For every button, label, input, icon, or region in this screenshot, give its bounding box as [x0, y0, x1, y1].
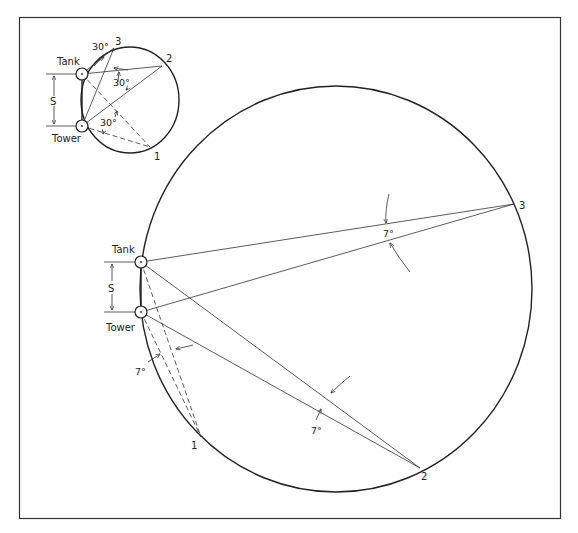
- main-dashed-tower-to-1: [141, 312, 201, 437]
- inset-angle-arrow-b3: [126, 88, 128, 90]
- inset-angle-arrow-c2: [103, 131, 104, 134]
- main-point3-label: 3: [519, 200, 525, 211]
- main-tank-label: Tank: [111, 244, 135, 255]
- main-line-tower-to-3: [141, 204, 514, 312]
- main-point2-label: 2: [421, 471, 427, 482]
- main-separation-label: S: [108, 283, 114, 294]
- inset-diagram: S Tank Tower 3 2 1 30° 30° 30°: [46, 36, 179, 162]
- inset-tank-dot: [81, 73, 83, 75]
- inset-separation-label: S: [50, 96, 56, 107]
- main-angle3-arrow-top: [386, 194, 389, 223]
- main-line-tank-to-2: [141, 262, 420, 468]
- inset-tower-dot: [81, 125, 83, 127]
- main-dashed-tank-to-1: [141, 262, 201, 437]
- inset-tank-label: Tank: [56, 56, 80, 67]
- inset-angle-label-a: 30°: [92, 41, 109, 52]
- main-point1-label: 1: [191, 440, 197, 451]
- inset-point3-label: 3: [115, 36, 121, 47]
- main-tower-dot: [140, 311, 142, 313]
- inset-line-tank-to-2: [82, 66, 162, 74]
- radar-tilt-geometry-diagram: S Tank Tower 3 2 1 30° 30° 30°: [0, 0, 578, 533]
- inset-tower-label: Tower: [51, 133, 82, 144]
- main-angle1-label: 7°: [135, 366, 146, 377]
- main-diagram: S Tank Tower 3 2 1 7° 7° 7°: [104, 86, 532, 492]
- main-angle3-arrow-bottom: [390, 243, 410, 272]
- inset-point2-label: 2: [166, 53, 172, 64]
- inset-angle-label-b: 30°: [113, 77, 130, 88]
- inset-dashed-tower-to-1: [82, 126, 150, 147]
- main-angle2-arrow-top: [331, 376, 350, 393]
- main-angle2-label: 7°: [311, 425, 322, 436]
- main-tank-dot: [140, 261, 142, 263]
- main-line-tank-to-3: [141, 204, 514, 262]
- main-angle3-label: 7°: [383, 228, 394, 239]
- inset-point1-label: 1: [154, 151, 160, 162]
- main-angle1-arrow-right: [176, 345, 193, 349]
- figure-frame: [20, 18, 561, 519]
- main-angle1-arrow-left: [148, 354, 160, 362]
- inset-angle-label-c: 30°: [100, 117, 117, 128]
- main-line-tower-to-2: [141, 312, 420, 468]
- main-tower-label: Tower: [105, 322, 136, 333]
